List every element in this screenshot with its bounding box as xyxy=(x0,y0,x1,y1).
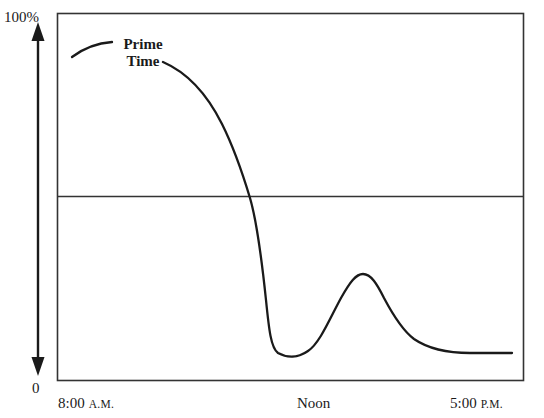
x-axis-label-noon: Noon xyxy=(297,396,330,411)
x-axis-label-evening-time: 5:00 xyxy=(450,395,477,411)
x-axis-label-evening-period: P.M. xyxy=(481,398,503,410)
x-axis-label-morning-time: 8:00 xyxy=(58,395,85,411)
x-axis-label-evening: 5:00P.M. xyxy=(450,396,503,411)
y-axis-double-arrow xyxy=(32,22,45,376)
y-axis-min-label: 0 xyxy=(32,381,40,396)
energy-curve xyxy=(163,62,512,357)
energy-curve-lead-segment xyxy=(72,42,112,57)
y-axis-max-label: 100% xyxy=(4,10,39,25)
energy-cycle-chart: Typical Energy Cycle 100% 0 8:00A.M. Noo… xyxy=(0,0,544,418)
x-axis-label-morning: 8:00A.M. xyxy=(58,396,114,411)
series-annotation-prime-time: Prime Time xyxy=(110,36,176,70)
x-axis-label-morning-period: A.M. xyxy=(89,398,114,410)
chart-canvas xyxy=(0,0,544,418)
